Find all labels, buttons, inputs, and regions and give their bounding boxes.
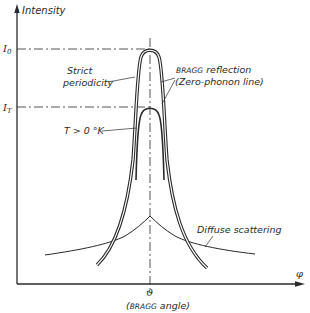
bragg-reflection-diagram: Intensity φ I0 IT Strict periodicity T >… [0, 0, 310, 313]
x-axis-arrow-icon [295, 281, 305, 286]
i0-label: I0 [2, 43, 12, 56]
svg-text:Diffuse scattering: Diffuse scattering [197, 224, 282, 235]
annotation-diffuse-scattering: Diffuse scattering [197, 224, 282, 247]
x-axis-label: φ [296, 268, 303, 279]
y-axis-label: Intensity [22, 5, 67, 16]
annotation-strict-periodicity: Strict periodicity [62, 65, 135, 88]
svg-text:ϑ: ϑ [146, 287, 153, 298]
svg-text:(Bragg angle): (Bragg angle) [126, 300, 190, 311]
level-it: IT [2, 102, 150, 115]
level-i0: I0 [2, 43, 150, 56]
svg-text:(Zero-phonon line): (Zero-phonon line) [175, 76, 264, 87]
svg-text:periodicity: periodicity [62, 77, 113, 88]
svg-text:T > 0 °K: T > 0 °K [64, 125, 105, 136]
svg-text:Strict: Strict [67, 65, 94, 76]
y-axis: Intensity [14, 4, 66, 284]
x-axis: φ [17, 268, 305, 287]
y-axis-arrow-icon [14, 4, 19, 13]
bragg-angle-label: ϑ (Bragg angle) [126, 287, 190, 311]
annotation-temperature: T > 0 °K [64, 125, 137, 136]
annotation-bragg-reflection: Bragg reflection (Zero-phonon line) [161, 64, 264, 104]
svg-text:Bragg reflection: Bragg reflection [176, 64, 251, 75]
it-label: IT [2, 102, 13, 115]
